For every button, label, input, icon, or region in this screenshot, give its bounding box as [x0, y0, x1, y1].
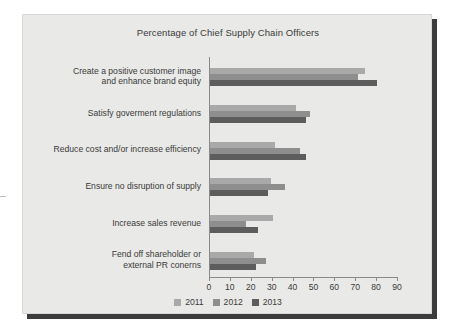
chart-title: Percentage of Chief Supply Chain Officer…: [23, 27, 433, 38]
category-label: Satisfy goverment regulations: [88, 108, 201, 119]
legend-item-2013: 2013: [252, 297, 282, 307]
category-label: Increase sales revenue: [112, 218, 201, 229]
legend-label: 2011: [185, 297, 203, 307]
x-tick: [397, 277, 398, 281]
plot-area: 0102030405060708090: [209, 57, 397, 277]
x-tick: [376, 277, 377, 281]
x-tick: [293, 277, 294, 281]
legend-swatch-icon: [252, 299, 259, 306]
x-tick-label: 20: [246, 282, 256, 292]
x-tick-label: 0: [207, 282, 212, 292]
x-tick: [251, 277, 252, 281]
x-tick-label: 90: [392, 282, 402, 292]
category-label-line: external PR conerns: [123, 260, 201, 270]
legend-label: 2012: [224, 297, 243, 307]
x-tick-label: 10: [225, 282, 235, 292]
chart-panel: Percentage of Chief Supply Chain Officer…: [22, 14, 432, 314]
x-tick: [313, 277, 314, 281]
category-label-line: Create a positive customer image: [73, 66, 201, 76]
category-label: Reduce cost and/or increase efficiency: [54, 144, 201, 155]
chart-figure: Percentage of Chief Supply Chain Officer…: [0, 0, 450, 336]
bar-2013: [210, 154, 306, 160]
x-tick-label: 70: [350, 282, 360, 292]
category-label: Fend off shareholder orexternal PR coner…: [112, 249, 201, 270]
category-label-line: and enhance brand equity: [102, 76, 201, 86]
bar-group: [210, 68, 398, 90]
x-tick: [272, 277, 273, 281]
legend-item-2011: 2011: [174, 297, 203, 307]
x-tick: [355, 277, 356, 281]
category-label-line: Fend off shareholder or: [112, 249, 201, 259]
category-label: Ensure no disruption of supply: [85, 181, 201, 192]
x-tick: [230, 277, 231, 281]
category-label-line: Increase sales revenue: [112, 218, 201, 228]
bar-2013: [210, 264, 256, 270]
x-tick-label: 60: [330, 282, 340, 292]
category-label-line: Ensure no disruption of supply: [85, 181, 201, 191]
page-edge-mark: [0, 196, 6, 197]
category-label-line: Reduce cost and/or increase efficiency: [54, 144, 201, 154]
x-tick-label: 50: [309, 282, 319, 292]
bar-group: [210, 252, 398, 274]
x-tick-label: 80: [371, 282, 381, 292]
category-axis-labels: Create a positive customer imageand enha…: [33, 57, 205, 277]
bar-2013: [210, 117, 306, 123]
bar-group: [210, 178, 398, 200]
bar-2013: [210, 190, 268, 196]
bar-group: [210, 142, 398, 164]
x-tick-label: 30: [267, 282, 277, 292]
bar-2013: [210, 227, 258, 233]
chart-legend: 201120122013: [23, 297, 433, 307]
x-tick: [334, 277, 335, 281]
value-axis-line: [209, 277, 397, 278]
category-label-line: Satisfy goverment regulations: [88, 108, 201, 118]
x-tick: [209, 277, 210, 281]
bar-group: [210, 105, 398, 127]
bar-group: [210, 215, 398, 237]
bar-2013: [210, 80, 377, 86]
x-tick-label: 40: [288, 282, 298, 292]
legend-swatch-icon: [213, 299, 220, 306]
legend-swatch-icon: [174, 299, 181, 306]
legend-label: 2013: [263, 297, 282, 307]
legend-item-2012: 2012: [213, 297, 243, 307]
category-label: Create a positive customer imageand enha…: [73, 66, 201, 87]
